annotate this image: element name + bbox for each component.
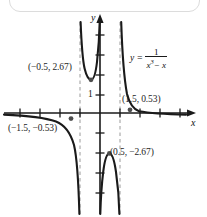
marker-neg1p5-neg0p53 (69, 116, 74, 121)
left-min-label: (−0.5, 2.67) (28, 63, 72, 73)
x-axis-label: x (191, 118, 195, 128)
equation-denominator-tail: − x (154, 60, 166, 70)
graph-canvas (0, 0, 207, 217)
equation-lhs: y = (130, 53, 143, 63)
equation-numerator: 1 (145, 48, 167, 56)
left-point-label: (−1.5, −0.53) (8, 124, 57, 134)
equation-fraction: 1 x3− x (145, 48, 167, 70)
y-axis (96, 14, 105, 214)
right-point-label: (1.5, 0.53) (122, 95, 160, 105)
x-axis-arrowhead (187, 109, 196, 116)
equation-label: y = 1 x3− x (130, 48, 167, 70)
branch-neg1-to-0 (81, 22, 100, 80)
right-max-label: (0.5, −2.67) (110, 148, 154, 158)
marker-1p5-0p53 (128, 107, 133, 112)
y-tick-label-1: 1 (88, 90, 93, 100)
y-axis-label: y (91, 13, 95, 23)
marker-neg0p5-2p67 (89, 77, 94, 82)
figure-container: y x 1 (−0.5, 2.67) (1.5, 0.53) (−1.5, −0… (0, 0, 207, 217)
equation-denominator: x3− x (145, 56, 167, 70)
branch-0-to-pos1 (100, 153, 119, 214)
